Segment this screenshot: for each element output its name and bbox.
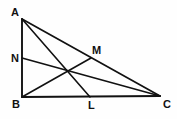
point-label-N: N [11, 53, 19, 64]
geometry-figure: A B C N M L [0, 0, 177, 119]
point-label-M: M [92, 45, 101, 56]
vertex-label-C: C [163, 99, 171, 110]
point-label-L: L [88, 100, 95, 111]
vertex-label-A: A [11, 7, 19, 18]
side-BC [22, 96, 160, 97]
vertex-label-B: B [12, 99, 20, 110]
